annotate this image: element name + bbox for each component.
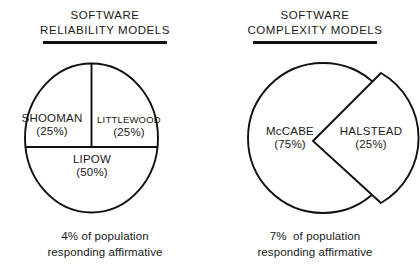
left-caption-line-2: responding affirmative (0, 244, 210, 260)
left-caption: 4% of population responding affirmative (0, 228, 210, 260)
left-caption-line-1: 4% of population (0, 228, 210, 244)
left-slice-label-lipow: LIPOW (50%) (41, 153, 143, 179)
right-pie-svg (210, 0, 420, 225)
software-models-figure: SOFTWARE RELIABILITY MODELS SHOOMAN (25%… (0, 0, 420, 278)
right-slice-pct-halstead: (25%) (332, 138, 410, 151)
right-slice-name-halstead: HALSTEAD (332, 125, 410, 138)
left-slice-label-shooman: SHOOMAN (25%) (13, 112, 91, 138)
left-slice-pct-littlewood: (25%) (94, 126, 164, 139)
panel-software-complexity-models: SOFTWARE COMPLEXITY MODELS McCABE (75%) … (210, 0, 420, 278)
right-pie-chart: McCABE (75%) HALSTEAD (25%) (210, 0, 420, 225)
left-slice-name-shooman: SHOOMAN (13, 112, 91, 125)
right-caption-line-1: 7% of population (210, 228, 420, 244)
left-slice-pct-shooman: (25%) (13, 125, 91, 138)
left-pie-chart: SHOOMAN (25%) LITTLEWOOD (25%) LIPOW (50… (0, 0, 210, 225)
right-slice-label-mccabe: McCABE (75%) (250, 125, 330, 151)
panel-software-reliability-models: SOFTWARE RELIABILITY MODELS SHOOMAN (25%… (0, 0, 210, 278)
right-slice-label-halstead: HALSTEAD (25%) (332, 125, 410, 151)
right-caption: 7% of population responding affirmative (210, 228, 420, 260)
left-slice-name-lipow: LIPOW (41, 153, 143, 166)
right-slice-pct-mccabe: (75%) (250, 138, 330, 151)
right-slice-name-mccabe: McCABE (250, 125, 330, 138)
left-slice-pct-lipow: (50%) (41, 166, 143, 179)
left-slice-label-littlewood: LITTLEWOOD (25%) (94, 113, 164, 139)
right-caption-line-2: responding affirmative (210, 244, 420, 260)
left-slice-name-littlewood: LITTLEWOOD (94, 113, 164, 126)
